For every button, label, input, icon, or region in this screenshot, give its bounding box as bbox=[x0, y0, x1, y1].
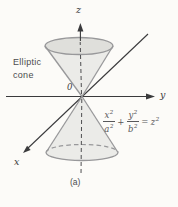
elliptic-cone-figure: z y x 0 Elliptic cone (a) x2 a2 + y2 b2 … bbox=[0, 0, 178, 207]
figure-caption: (a) bbox=[70, 177, 80, 187]
cone-diagram-canvas bbox=[0, 0, 178, 207]
top-cone-opening-ellipse bbox=[45, 38, 113, 55]
equation-equals-sign: = bbox=[141, 117, 149, 127]
fraction1-denominator: a2 bbox=[104, 122, 113, 134]
figure-name-line1: Elliptic bbox=[13, 56, 41, 69]
figure-name-label: Elliptic cone bbox=[13, 56, 41, 81]
figure-background bbox=[0, 0, 178, 207]
fraction2-denominator: b2 bbox=[128, 122, 137, 134]
equation-rhs: z2 bbox=[151, 116, 159, 127]
equation-fraction-1: x2 a2 bbox=[103, 109, 115, 134]
figure-name-line2: cone bbox=[13, 69, 41, 82]
fraction2-numerator: y2 bbox=[127, 109, 139, 122]
x-axis-label: x bbox=[14, 156, 19, 167]
origin-label: 0 bbox=[67, 82, 72, 92]
cone-equation: x2 a2 + y2 b2 = z2 bbox=[103, 109, 159, 134]
equation-fraction-2: y2 b2 bbox=[127, 109, 139, 134]
z-axis-label: z bbox=[76, 4, 81, 15]
fraction1-numerator: x2 bbox=[103, 109, 115, 122]
figure-page: { "figure": { "name_line1": "Elliptic", … bbox=[0, 0, 178, 207]
y-axis-label: y bbox=[160, 89, 165, 100]
equation-plus-sign: + bbox=[117, 117, 125, 127]
